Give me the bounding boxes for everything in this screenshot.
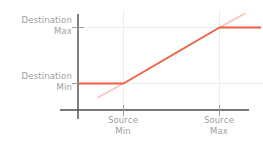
y-axis-label-destination-max-line1: Destination: [0, 15, 72, 26]
x-axis-label-source-max: Source Max: [189, 115, 249, 136]
x-axis-label-source-min: Source Min: [93, 115, 153, 136]
x-axis-label-source-min-line1: Source: [93, 115, 153, 126]
ramp-extension-lower-icon: [98, 84, 124, 98]
ramp-extension-upper-icon: [220, 14, 246, 28]
remap-curve-chart: Destination Max Destination Min Source M…: [0, 0, 263, 145]
y-axis-label-destination-min-line2: Min: [0, 82, 72, 93]
x-axis-label-source-max-line1: Source: [189, 115, 249, 126]
x-axis-label-source-max-line2: Max: [189, 126, 249, 137]
remap-curve-line: [78, 28, 261, 84]
y-axis-label-destination-max-line2: Max: [0, 26, 72, 37]
gridlines: [78, 10, 263, 110]
y-axis-label-destination-min-line1: Destination: [0, 71, 72, 82]
y-axis-label-destination-min: Destination Min: [0, 71, 72, 92]
x-axis-label-source-min-line2: Min: [93, 126, 153, 137]
y-axis-label-destination-max: Destination Max: [0, 15, 72, 36]
